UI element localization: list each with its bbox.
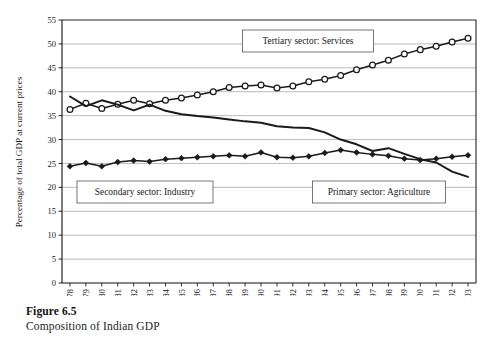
annotation-label: Primary sector: Agriculture [328, 187, 431, 197]
data-point-marker [306, 79, 312, 85]
series-line [70, 97, 468, 177]
data-point-marker [354, 150, 360, 156]
x-tick-label: 1996 [353, 289, 362, 296]
data-point-marker [179, 95, 185, 101]
annotation-1: Tertiary sector: Services [243, 30, 374, 52]
data-point-marker [386, 57, 392, 63]
data-point-marker [274, 154, 280, 160]
gridlines [62, 44, 476, 259]
data-point-marker [465, 152, 471, 158]
y-axis-ticks: 0510152025303540455055 [47, 15, 62, 288]
x-tick-label: 1999 [400, 289, 409, 296]
x-tick-label: 1987 [209, 289, 218, 296]
data-point-marker [433, 43, 439, 49]
annotation-3: Primary sector: Agriculture [313, 181, 446, 203]
x-tick-label: 2003 [464, 289, 473, 296]
data-point-marker [83, 160, 89, 166]
gdp-composition-line-chart: 0510152025303540455055 19781979198019811… [0, 0, 500, 296]
x-axis-ticks: 1978197919801981198219831984198519861987… [66, 283, 473, 296]
y-tick-label: 40 [47, 87, 56, 97]
y-tick-label: 45 [47, 63, 56, 73]
x-tick-label: 1992 [289, 289, 298, 296]
data-point-marker [115, 159, 121, 165]
data-point-marker [194, 92, 200, 98]
data-point-marker [258, 150, 264, 156]
data-point-marker [210, 89, 216, 95]
data-point-marker [274, 85, 280, 91]
data-point-marker [99, 163, 105, 169]
y-tick-label: 30 [47, 135, 56, 145]
series-2 [70, 97, 468, 177]
x-tick-label: 2000 [416, 289, 425, 296]
data-point-marker [322, 76, 328, 82]
data-point-marker [131, 158, 137, 164]
x-tick-label: 1985 [178, 289, 187, 296]
x-tick-label: 1994 [321, 288, 330, 296]
y-tick-label: 10 [47, 230, 56, 240]
x-tick-label: 1982 [130, 289, 139, 296]
y-tick-label: 15 [47, 206, 56, 216]
data-point-marker [226, 152, 232, 158]
data-point-marker [67, 107, 73, 113]
x-tick-label: 1983 [146, 289, 155, 296]
y-tick-label: 35 [47, 111, 56, 121]
x-tick-label: 1995 [337, 289, 346, 296]
data-point-marker [290, 83, 296, 89]
x-tick-label: 1998 [385, 289, 394, 296]
x-tick-label: 1993 [305, 289, 314, 296]
data-point-marker [401, 51, 407, 57]
figure-caption-text: Composition of Indian GDP [26, 320, 466, 334]
data-point-marker [338, 73, 344, 79]
data-point-marker [449, 39, 455, 45]
x-tick-label: 1990 [257, 289, 266, 296]
data-point-marker [322, 150, 328, 156]
data-point-marker [401, 156, 407, 162]
data-point-marker [99, 106, 105, 112]
data-point-marker [179, 155, 185, 161]
data-point-marker [163, 97, 169, 103]
x-tick-label: 1984 [162, 288, 171, 296]
chart-area: 0510152025303540455055 19781979198019811… [0, 0, 500, 296]
data-point-marker [194, 154, 200, 160]
x-tick-label: 1989 [241, 289, 250, 296]
y-tick-label: 55 [47, 15, 56, 25]
data-point-marker [417, 47, 423, 53]
y-tick-label: 0 [52, 278, 56, 288]
data-point-marker [338, 147, 344, 153]
y-tick-label: 20 [47, 182, 56, 192]
data-point-marker [354, 67, 360, 73]
y-tick-label: 50 [47, 39, 56, 49]
annotation-label: Secondary sector: Industry [95, 187, 196, 197]
y-tick-label: 25 [47, 159, 56, 169]
data-point-marker [465, 35, 471, 41]
x-tick-label: 2002 [448, 289, 457, 296]
data-point-marker [258, 82, 264, 88]
y-tick-label: 5 [52, 254, 56, 264]
x-tick-label: 2001 [432, 289, 441, 296]
annotation-2: Secondary sector: Industry [77, 181, 213, 203]
series-line [70, 150, 468, 166]
x-tick-label: 1978 [66, 289, 75, 296]
figure-root: 0510152025303540455055 19781979198019811… [0, 0, 500, 348]
data-point-marker [163, 156, 169, 162]
data-point-marker [290, 155, 296, 161]
figure-caption: Figure 6.5 Composition of Indian GDP [26, 305, 466, 333]
data-point-marker [370, 151, 376, 157]
x-tick-label: 1997 [369, 289, 378, 296]
series-3 [67, 147, 471, 169]
annotation-group: Tertiary sector: ServicesSecondary secto… [77, 30, 446, 203]
x-tick-label: 1991 [273, 289, 282, 296]
data-point-marker [370, 62, 376, 68]
annotation-label: Tertiary sector: Services [263, 36, 354, 46]
data-point-marker [306, 153, 312, 159]
y-axis-label: Percentage of total GDP at current price… [14, 76, 24, 227]
data-point-marker [433, 156, 439, 162]
x-tick-label: 1980 [98, 289, 107, 296]
data-point-marker [449, 154, 455, 160]
data-point-marker [67, 163, 73, 169]
data-point-marker [242, 153, 248, 159]
series-group [67, 35, 471, 177]
x-tick-label: 1981 [114, 289, 123, 296]
data-point-marker [210, 153, 216, 159]
figure-number: Figure 6.5 [26, 305, 466, 319]
